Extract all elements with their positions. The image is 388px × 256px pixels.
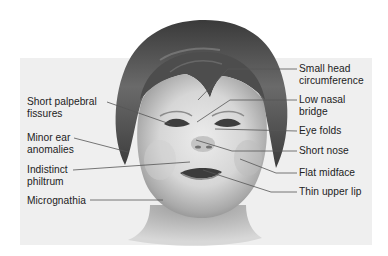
- label-flat-midface: Flat midface: [299, 167, 355, 179]
- label-line: Thin upper lip: [299, 186, 361, 198]
- label-line: Low nasal: [299, 94, 345, 106]
- label-line: fissures: [27, 108, 97, 120]
- label-low-nasal-bridge: Low nasal bridge: [299, 94, 345, 117]
- label-line: anomalies: [27, 144, 74, 156]
- label-line: Micrognathia: [27, 195, 86, 207]
- label-minor-ear-anomalies: Minor ear anomalies: [27, 132, 74, 155]
- label-line: Flat midface: [299, 167, 355, 179]
- label-micrognathia: Micrognathia: [27, 195, 86, 207]
- label-short-palpebral-fissures: Short palpebral fissures: [27, 96, 97, 119]
- label-line: Minor ear: [27, 132, 74, 144]
- label-line: Eye folds: [299, 125, 341, 137]
- label-line: Indistinct: [27, 164, 68, 176]
- label-small-head-circumference: Small head circumference: [299, 63, 364, 86]
- label-line: Short nose: [299, 145, 349, 157]
- label-eye-folds: Eye folds: [299, 125, 341, 137]
- label-line: Short palpebral: [27, 96, 97, 108]
- label-indistinct-philtrum: Indistinct philtrum: [27, 164, 68, 187]
- label-line: bridge: [299, 106, 345, 118]
- label-line: Small head: [299, 63, 364, 75]
- label-short-nose: Short nose: [299, 145, 349, 157]
- label-line: philtrum: [27, 176, 68, 188]
- nose: [191, 136, 215, 152]
- label-line: circumference: [299, 75, 364, 87]
- label-thin-upper-lip: Thin upper lip: [299, 186, 361, 198]
